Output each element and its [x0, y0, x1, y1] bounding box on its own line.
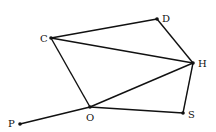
edge-c-h: [51, 38, 193, 63]
node-label-p: P: [8, 118, 15, 129]
node-d: [155, 17, 159, 21]
node-label-c: C: [40, 33, 48, 44]
node-label-h: H: [198, 58, 207, 69]
edge-o-s: [90, 107, 183, 113]
edge-d-h: [157, 19, 193, 63]
node-o: [88, 105, 92, 109]
node-h: [191, 61, 195, 65]
node-c: [49, 36, 53, 40]
edge-o-h: [90, 63, 193, 107]
labels: CDHSOP: [8, 13, 207, 129]
node-s: [181, 111, 185, 115]
node-label-s: S: [188, 109, 195, 120]
edge-c-d: [51, 19, 157, 38]
node-label-o: O: [86, 112, 94, 123]
edge-h-s: [183, 63, 193, 113]
graph-diagram: CDHSOP: [0, 0, 216, 132]
node-p: [18, 122, 22, 126]
edge-c-o: [51, 38, 90, 107]
edge-p-o: [20, 107, 90, 124]
node-label-d: D: [162, 13, 170, 24]
